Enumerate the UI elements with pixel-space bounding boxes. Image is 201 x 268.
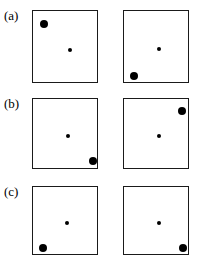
panel-c-left [32, 186, 98, 255]
panel-c-right [123, 186, 189, 255]
panel-b-left-large-marker [89, 157, 97, 165]
row-label-2: (c) [4, 185, 18, 198]
panel-b-left-small-marker [66, 134, 70, 138]
figure-panel-grid: (a)(b)(c) [0, 0, 201, 268]
panel-a-right [123, 10, 189, 83]
panel-c-right-large-marker [179, 244, 187, 252]
panel-b-right [123, 98, 189, 169]
panel-c-left-small-marker [65, 221, 69, 225]
panel-a-left-large-marker [40, 20, 48, 28]
panel-b-left [32, 98, 98, 169]
row-label-1: (b) [4, 97, 19, 110]
panel-c-left-large-marker [39, 244, 47, 252]
panel-a-left [32, 10, 98, 83]
row-label-0: (a) [4, 9, 18, 22]
panel-b-right-small-marker [157, 134, 161, 138]
panel-c-right-small-marker [157, 221, 161, 225]
panel-a-right-large-marker [130, 72, 138, 80]
panel-a-left-small-marker [68, 48, 72, 52]
panel-a-right-small-marker [157, 47, 161, 51]
panel-b-right-large-marker [178, 107, 186, 115]
